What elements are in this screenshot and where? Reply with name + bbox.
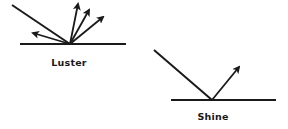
- shine-label: Shine: [197, 111, 228, 122]
- luster-reflected-ray-arrow-icon: [33, 33, 70, 44]
- luster-label: Luster: [51, 57, 86, 68]
- shine-figure: [154, 50, 276, 100]
- shine-reflected-ray-arrow-icon: [212, 67, 239, 100]
- luster-figure: [12, 4, 126, 44]
- shine-incident-ray: [154, 50, 212, 100]
- luster-incident-ray: [12, 5, 70, 44]
- reflection-diagram: [0, 0, 288, 129]
- diagram-canvas: Luster Shine: [0, 0, 288, 129]
